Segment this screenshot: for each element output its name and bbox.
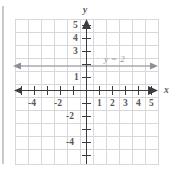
y-tick-label-4: 4 xyxy=(73,34,78,44)
y-tick-label-neg4: -4 xyxy=(66,138,74,148)
y-axis-label: y xyxy=(83,6,87,16)
x-tick-label-neg2: -2 xyxy=(54,99,62,109)
x-tick-label-3: 3 xyxy=(123,99,128,109)
coordinate-plane-svg xyxy=(0,0,174,172)
x-tick-label-4: 4 xyxy=(136,99,141,109)
figure-canvas: 5 4 3 1 -2 -4 -4 -2 1 2 3 4 5 y x y = 2 xyxy=(0,0,174,172)
x-axis-label: x xyxy=(164,86,169,96)
y-tick-label-neg2: -2 xyxy=(66,112,74,122)
x-tick-label-1: 1 xyxy=(97,99,102,109)
line-equation-label: y = 2 xyxy=(104,55,125,64)
x-tick-label-2: 2 xyxy=(110,99,115,109)
y-tick-label-5: 5 xyxy=(73,21,78,31)
x-tick-label-5: 5 xyxy=(149,99,154,109)
line-y-equals-2 xyxy=(13,62,158,69)
y-tick-label-3: 3 xyxy=(73,47,78,57)
x-tick-label-neg4: -4 xyxy=(28,99,36,109)
y-tick-label-1: 1 xyxy=(74,73,79,83)
